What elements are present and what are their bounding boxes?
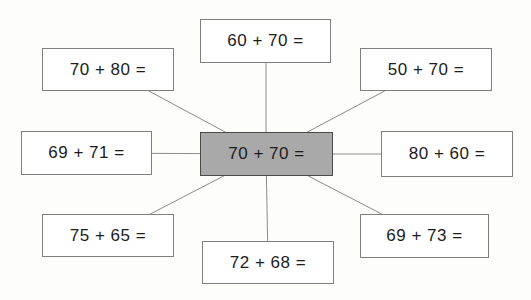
node-top-right: 50 + 70 =	[360, 48, 492, 91]
node-bottom-right: 69 + 73 =	[360, 214, 489, 258]
node-bottom-center: 72 + 68 =	[202, 241, 334, 284]
node-label: 70 + 80 =	[70, 60, 146, 80]
node-label: 60 + 70 =	[227, 31, 303, 51]
node-mid-left: 69 + 71 =	[21, 131, 152, 175]
node-top-left: 70 + 80 =	[42, 48, 174, 91]
center-box: 70 + 70 =	[200, 132, 333, 176]
node-bottom-left: 75 + 65 =	[42, 214, 174, 257]
node-label: 69 + 73 =	[386, 226, 462, 246]
center-box-label: 70 + 70 =	[228, 144, 304, 164]
node-top-center: 60 + 70 =	[200, 19, 331, 63]
node-mid-right: 80 + 60 =	[381, 131, 513, 177]
node-label: 75 + 65 =	[70, 226, 146, 246]
node-label: 69 + 71 =	[48, 143, 124, 163]
node-label: 80 + 60 =	[409, 144, 485, 164]
node-label: 50 + 70 =	[388, 60, 464, 80]
math-sums-diagram: 70 + 70 = 70 + 80 = 60 + 70 = 50 + 70 = …	[0, 0, 531, 300]
node-label: 72 + 68 =	[230, 253, 306, 273]
